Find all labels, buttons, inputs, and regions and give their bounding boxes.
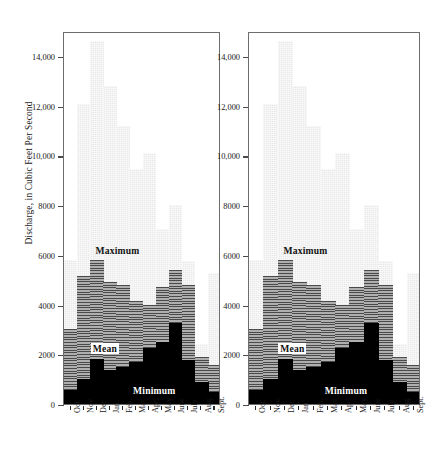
series-label-mean: Mean	[278, 343, 306, 354]
y-axis-tick-label: 4000	[19, 301, 55, 310]
x-axis-tick	[148, 406, 149, 410]
x-axis-tick-label: Oct.	[73, 399, 82, 413]
series-label-maximum: Maximum	[95, 245, 139, 256]
x-axis-tick-label: Oct.	[258, 399, 267, 413]
x-axis-tick	[399, 406, 400, 410]
x-axis-tick	[70, 406, 71, 410]
x-axis-tick	[413, 406, 414, 410]
x-axis-tick	[270, 406, 271, 410]
x-axis-tick	[200, 406, 201, 410]
y-axis-tick-label: 8000	[204, 202, 240, 211]
y-axis-tick-label: 12,000	[204, 102, 240, 111]
x-axis-tick-label: Mar.	[330, 398, 339, 413]
bars-layer: MaximumMeanMinimum	[249, 33, 419, 404]
x-axis-tick	[174, 406, 175, 410]
y-axis-tick-label: 2000	[204, 351, 240, 360]
y-axis-tick-label: 0	[19, 401, 55, 410]
x-axis-tick-label: Jan.	[301, 400, 310, 413]
x-axis-tick	[284, 406, 285, 410]
x-axis-tick	[255, 406, 256, 410]
x-axis-tick	[161, 406, 162, 410]
y-axis-tick-label: 6000	[204, 251, 240, 260]
x-axis-tick	[341, 406, 342, 410]
x-axis-tick	[122, 406, 123, 410]
x-axis-tick	[313, 406, 314, 410]
series-label-minimum: Minimum	[133, 385, 175, 396]
x-axis-tick-label: Nov.	[86, 397, 95, 413]
x-axis-tick-label: Apr.	[151, 399, 160, 413]
x-axis-tick	[109, 406, 110, 410]
x-axis-tick	[135, 406, 136, 410]
x-axis-tick	[370, 406, 371, 410]
x-axis-tick	[384, 406, 385, 410]
y-axis-tick-label: 12,000	[19, 102, 55, 111]
x-axis-tick-label: May	[359, 398, 368, 413]
x-axis-tick-label: Mar.	[138, 398, 147, 413]
x-axis-tick	[356, 406, 357, 410]
y-axis-tick-label: 14,000	[204, 52, 240, 61]
x-axis-tick	[83, 406, 84, 410]
x-axis-tick	[187, 406, 188, 410]
y-axis-tick-label: 10,000	[204, 152, 240, 161]
y-axis-tick	[243, 405, 249, 406]
x-axis-tick-label: Feb.	[316, 399, 325, 413]
y-axis-tick-label: 0	[204, 401, 240, 410]
x-axis-tick-label: July	[190, 399, 199, 413]
x-axis-tick-label: Jan.	[112, 400, 121, 413]
y-axis-tick-label: 10,000	[19, 152, 55, 161]
y-axis-tick-label: 8000	[19, 202, 55, 211]
x-axis-tick-label: June	[177, 398, 186, 413]
x-axis-tick-label: Aug.	[402, 397, 411, 413]
y-axis-tick-label: 6000	[19, 251, 55, 260]
x-axis-tick	[96, 406, 97, 410]
series-label-mean: Mean	[91, 343, 119, 354]
plot-frame: MaximumMeanMinimum	[248, 32, 420, 405]
series-label-maximum: Maximum	[283, 245, 327, 256]
x-axis-tick-label: Dec.	[99, 398, 108, 413]
x-axis-tick-label: Nov.	[273, 397, 282, 413]
y-axis-tick-label: 2000	[19, 351, 55, 360]
y-axis-tick-label: 4000	[204, 301, 240, 310]
x-axis-tick-label: Apr.	[344, 399, 353, 413]
x-axis-tick	[327, 406, 328, 410]
bars-layer: MaximumMeanMinimum	[64, 33, 219, 404]
x-axis-tick-label: Dec.	[287, 398, 296, 413]
plot-frame: MaximumMeanMinimum	[63, 32, 220, 405]
y-axis-tick	[58, 405, 64, 406]
discharge-figure: Discharge, in Cubic Feet Per Second 0200…	[0, 0, 433, 455]
x-axis-tick-label: May	[164, 398, 173, 413]
x-axis-tick-label: July	[387, 399, 396, 413]
x-axis-tick-label: Feb.	[125, 399, 134, 413]
x-axis-tick-label: June	[373, 398, 382, 413]
x-axis-tick-label: Sept.	[416, 396, 425, 413]
series-label-minimum: Minimum	[325, 385, 367, 396]
y-axis-tick-label: 14,000	[19, 52, 55, 61]
x-axis-tick	[298, 406, 299, 410]
